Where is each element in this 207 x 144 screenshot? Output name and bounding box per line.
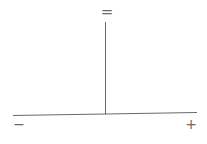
minus-sign-label: − [11, 117, 27, 131]
axis-lines [0, 0, 207, 144]
equal-sign-label: = [99, 5, 115, 19]
plus-sign-label: + [183, 117, 199, 131]
balance-diagram: = − + [0, 0, 207, 144]
